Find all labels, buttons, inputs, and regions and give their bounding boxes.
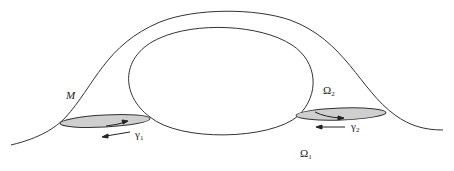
inner-hole-curve xyxy=(129,27,314,134)
label-gamma1: γ1 xyxy=(135,129,143,142)
diagram-canvas xyxy=(0,0,454,171)
label-gamma2: γ2 xyxy=(351,121,359,134)
gamma2-subscript: 2 xyxy=(356,126,360,134)
label-omega1: Ω1 xyxy=(300,148,312,161)
manifold-symbol: M xyxy=(66,89,75,101)
gamma1-subscript: 1 xyxy=(140,134,144,142)
omega2-symbol: Ω xyxy=(323,84,331,96)
label-omega2: Ω2 xyxy=(323,85,335,98)
omega2-subscript: 2 xyxy=(331,90,335,98)
omega1-subscript: 1 xyxy=(308,153,312,161)
label-manifold: M xyxy=(66,90,75,101)
disc-gamma1 xyxy=(60,113,151,130)
omega1-symbol: Ω xyxy=(300,147,308,159)
